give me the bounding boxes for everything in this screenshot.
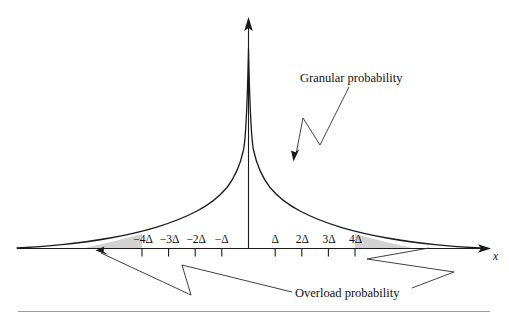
- granular-probability-arrowhead: [291, 149, 299, 161]
- tick-label-minus-4delta: −4Δ: [133, 233, 153, 245]
- tick-label-plus-2delta: 2Δ: [296, 233, 309, 245]
- tick-label-minus-1delta: −Δ: [215, 233, 229, 245]
- overload-probability-leader-right: [367, 248, 454, 288]
- x-axis-label: x: [492, 250, 499, 262]
- tick-label-plus-1delta: Δ: [271, 233, 278, 245]
- granular-probability-leader: [296, 87, 349, 154]
- tick-label-minus-3delta: −3Δ: [160, 233, 180, 245]
- figure-container: −4Δ −3Δ −2Δ −Δ Δ 2Δ 3Δ 4Δ x Granular pro…: [0, 0, 509, 325]
- overload-probability-label: Overload probability: [295, 286, 400, 300]
- tick-label-plus-4delta: 4Δ: [349, 233, 362, 245]
- overload-probability-leader-left: [101, 253, 292, 295]
- tick-label-plus-3delta: 3Δ: [322, 233, 335, 245]
- granular-probability-label: Granular probability: [300, 71, 403, 85]
- probability-density-figure: −4Δ −3Δ −2Δ −Δ Δ 2Δ 3Δ 4Δ x Granular pro…: [0, 0, 509, 325]
- tick-label-minus-2delta: −2Δ: [186, 233, 206, 245]
